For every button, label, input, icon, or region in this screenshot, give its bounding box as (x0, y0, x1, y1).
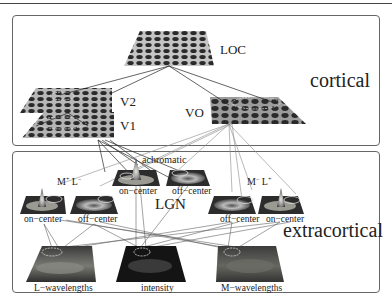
v1-grid (22, 112, 114, 138)
mminus-lplus-off-center-cell (208, 196, 256, 214)
vo-grid (210, 97, 306, 124)
l-wavelengths-image (26, 246, 96, 282)
v2-grid (20, 88, 112, 113)
achromatic-label: achromatic (142, 155, 186, 165)
extracortical-title: extracortical (283, 220, 383, 240)
loc-grid (124, 31, 214, 66)
mplus-lminus-on-center-cell (20, 188, 66, 214)
l-wavelengths-label: L−wavelengths (34, 284, 93, 294)
mplus-lminus-on-center-label: on−center (24, 215, 62, 225)
loc-label: LOC (220, 43, 246, 56)
achromatic-off-center-cell (166, 170, 210, 186)
mplus-lminus-off-center-label: off−center (78, 215, 117, 225)
v2-label: V2 (120, 95, 136, 108)
mplus-lminus-off-center-cell (70, 196, 118, 215)
intensity-label: intensity (141, 284, 174, 294)
achromatic-on-center-label: on−center (119, 187, 157, 197)
mplus-lminus-label: M+ L− (57, 176, 81, 187)
diagram-graphics (0, 0, 392, 305)
vo-label: VO (185, 106, 204, 119)
cortical-title: cortical (310, 70, 370, 90)
m-wavelengths-image (216, 246, 284, 282)
lgn-label: LGN (155, 197, 186, 212)
mminus-lplus-on-center-cell (258, 188, 304, 214)
intensity-image (116, 246, 186, 282)
mminus-lplus-label: M− L+ (247, 176, 271, 187)
v1-label: V1 (120, 119, 136, 132)
mminus-lplus-off-center-label: off−center (220, 215, 259, 225)
m-wavelengths-label: M−wavelengths (221, 284, 282, 294)
